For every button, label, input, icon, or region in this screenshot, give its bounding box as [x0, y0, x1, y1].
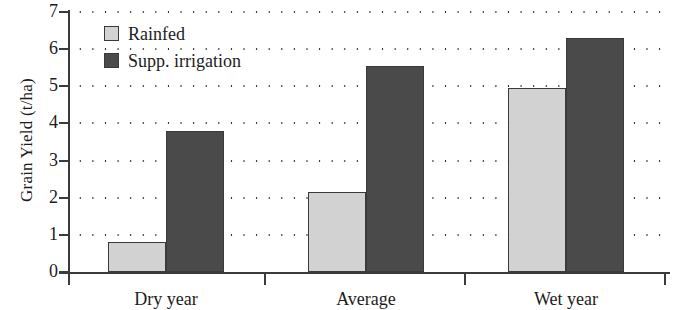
- bar: [508, 88, 566, 272]
- y-axis-tick-label: 1: [28, 225, 58, 243]
- x-axis-category-label: Dry year: [96, 289, 236, 309]
- y-axis-tick-label: 0: [28, 262, 58, 280]
- legend-swatch-icon: [104, 53, 119, 68]
- y-axis-tick: [59, 234, 70, 236]
- gridline: [70, 11, 670, 13]
- legend-item: Rainfed: [104, 20, 241, 47]
- y-axis-tick-label: 4: [28, 113, 58, 131]
- y-axis-tick-label: 3: [28, 151, 58, 169]
- group-separator-tick: [664, 274, 666, 285]
- bar-chart: Grain Yield (t/ha) 01234567 Dry yearAver…: [0, 0, 675, 310]
- y-axis-tick: [59, 122, 70, 124]
- bar: [308, 192, 366, 272]
- y-axis-tick-label: 5: [28, 76, 58, 94]
- legend-swatch-icon: [104, 26, 119, 41]
- x-axis-line: [59, 272, 670, 274]
- group-separator-tick: [464, 274, 466, 285]
- y-axis-tick-label: 7: [28, 2, 58, 20]
- x-axis-category-label: Average: [296, 289, 436, 309]
- bar: [566, 38, 624, 272]
- y-axis-tick-label: 2: [28, 188, 58, 206]
- y-axis-tick-labels: 01234567: [20, 12, 58, 272]
- legend-label: Supp. irrigation: [128, 52, 241, 70]
- legend-label: Rainfed: [128, 25, 185, 43]
- y-axis-tick: [59, 11, 70, 13]
- y-axis-tick: [59, 197, 70, 199]
- y-axis-tick-label: 6: [28, 39, 58, 57]
- y-axis-tick: [59, 160, 70, 162]
- legend: RainfedSupp. irrigation: [104, 20, 241, 74]
- group-separator-tick: [264, 274, 266, 285]
- bar: [166, 131, 224, 272]
- legend-item: Supp. irrigation: [104, 47, 241, 74]
- y-axis-tick: [59, 85, 70, 87]
- bar: [366, 66, 424, 272]
- bar: [108, 242, 166, 272]
- group-separator-tick: [68, 274, 70, 285]
- y-axis-tick: [59, 48, 70, 50]
- x-axis-category-label: Wet year: [496, 289, 636, 309]
